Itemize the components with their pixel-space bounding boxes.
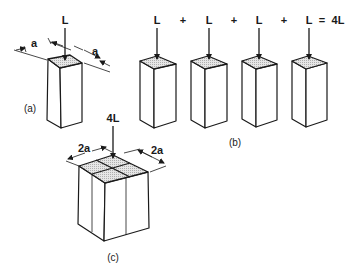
plus-sign: + — [231, 14, 237, 26]
panel-a: L a a (a) — [14, 14, 110, 128]
column-b3 — [242, 28, 277, 127]
load-label: L — [206, 14, 213, 26]
column-b1 — [140, 28, 176, 128]
dimension-label: a — [31, 37, 38, 49]
plus-sign: + — [281, 14, 287, 26]
load-label: L — [154, 14, 161, 26]
dimension-label: 2a — [151, 144, 164, 156]
panel-caption: (c) — [107, 252, 119, 263]
total-load-label: 4L — [332, 14, 345, 26]
panel-caption: (a) — [24, 103, 36, 114]
equals-sign: = — [319, 14, 325, 26]
column-b2 — [191, 28, 227, 128]
dimension-label: 2a — [78, 142, 91, 154]
plus-sign: + — [180, 14, 186, 26]
column-load-diagram: L a a (a) — [0, 0, 354, 272]
load-label: 4L — [107, 112, 120, 124]
load-label: L — [62, 14, 69, 26]
dimension-label: a — [92, 45, 99, 57]
column-b4 — [292, 28, 327, 127]
load-label: L — [256, 14, 263, 26]
panel-c: 4L 2a 2a (c) — [66, 112, 166, 263]
column-a — [47, 55, 82, 128]
column-bundle-c — [78, 155, 149, 241]
panel-b: L + L + L + L = 4L (b) — [140, 14, 345, 148]
panel-caption: (b) — [229, 137, 241, 148]
load-label: L — [306, 14, 313, 26]
